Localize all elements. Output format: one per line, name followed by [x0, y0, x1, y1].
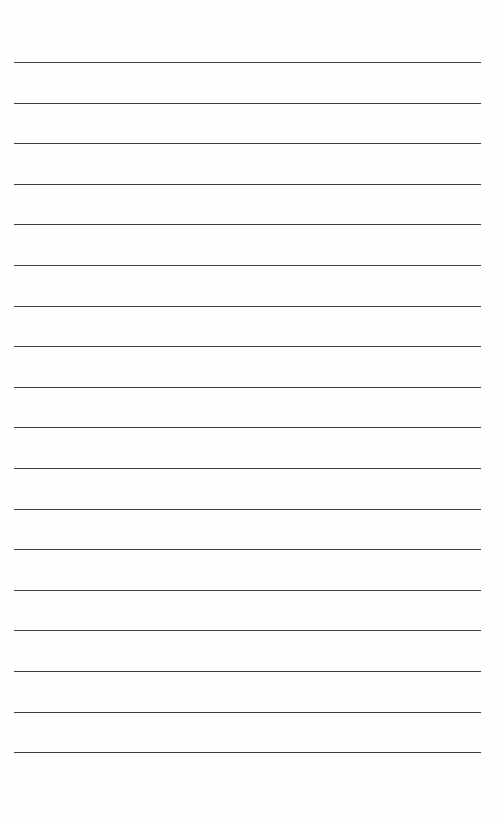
ruled-line [14, 630, 481, 631]
ruled-line [14, 306, 481, 307]
ruled-line [14, 671, 481, 672]
lined-paper-page [0, 0, 503, 822]
ruled-line [14, 427, 481, 428]
ruled-line [14, 549, 481, 550]
ruled-line [14, 346, 481, 347]
ruled-line [14, 509, 481, 510]
ruled-line [14, 62, 481, 63]
ruled-line [14, 752, 481, 753]
ruled-line [14, 387, 481, 388]
ruled-line [14, 224, 481, 225]
ruled-line [14, 184, 481, 185]
ruled-line [14, 590, 481, 591]
ruled-line [14, 468, 481, 469]
ruled-line [14, 143, 481, 144]
ruled-line [14, 103, 481, 104]
ruled-line [14, 712, 481, 713]
ruled-line [14, 265, 481, 266]
